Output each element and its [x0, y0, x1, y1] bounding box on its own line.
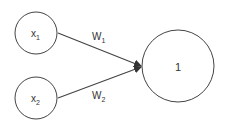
output-node: 1 [142, 30, 214, 102]
svg-text:x2: x2 [31, 93, 40, 106]
output-node-label: 1 [175, 61, 181, 73]
input-node-x1: x1 [15, 12, 57, 54]
svg-text:x1: x1 [31, 28, 40, 41]
input-node-x2: x2 [15, 77, 57, 119]
w2-sub: 2 [101, 96, 105, 103]
svg-text:W1: W1 [92, 31, 105, 44]
perceptron-diagram: x1 x2 1 W1 W2 [0, 0, 228, 125]
svg-text:W2: W2 [92, 90, 105, 103]
edge-w2: W2 [58, 67, 141, 103]
w1-sub: 1 [101, 37, 105, 44]
x1-sub: 1 [36, 34, 40, 41]
x2-sub: 2 [36, 99, 40, 106]
edge-w1: W1 [58, 31, 141, 66]
